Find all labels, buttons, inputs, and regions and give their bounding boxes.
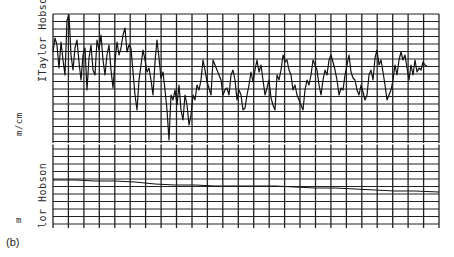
horizontal-gridlines <box>53 14 439 224</box>
chart-paper-imprint-upper: ITaylor Hobson Limi <box>37 0 48 82</box>
unit-label-lower: m <box>16 215 21 225</box>
upper-roughness-trace <box>53 15 427 140</box>
chart-paper-imprint-lower: lor Hobson <box>37 163 48 228</box>
unit-label-upper: m/cm <box>14 112 24 136</box>
profile-chart <box>0 0 454 257</box>
vertical-gridlines <box>53 14 439 228</box>
panel-label: (b) <box>6 236 19 248</box>
panel-split-gap <box>52 143 440 145</box>
